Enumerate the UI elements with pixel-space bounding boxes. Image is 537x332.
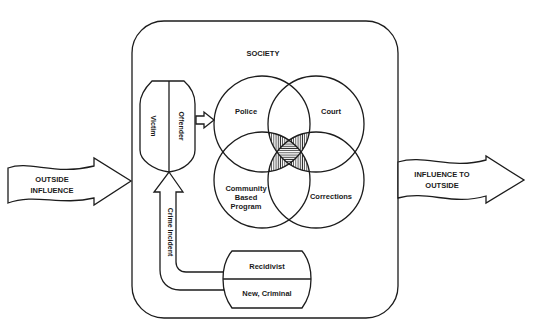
victim-label: Victim <box>150 116 157 137</box>
recidivist-new-criminal-block: Recidivist New, Criminal <box>223 251 311 308</box>
community-label-2: Based <box>235 193 258 202</box>
police-circle <box>214 76 310 172</box>
corrections-circle <box>268 132 364 228</box>
police-label: Police <box>235 107 257 116</box>
crime-incident-label: Crime Incident <box>167 208 174 257</box>
offender-to-police-arrow <box>196 112 214 128</box>
court-circle <box>268 76 364 172</box>
new-criminal-label: New, Criminal <box>242 289 291 298</box>
victim-offender-block: Victim Offender <box>140 81 195 172</box>
outside-influence-label-1: OUTSIDE <box>35 175 68 184</box>
community-label-1: Community <box>225 184 267 193</box>
recidivist-label: Recidivist <box>249 262 285 271</box>
influence-to-outside-label-2: OUTSIDE <box>425 181 458 190</box>
influence-to-outside-arrow: INFLUENCE TO OUTSIDE <box>398 156 524 203</box>
criminal-justice-system-diagram: SOCIETY OUTSIDE INFLUENCE INFLUENCE TO O… <box>0 0 537 332</box>
outside-influence-label-2: INFLUENCE <box>31 186 74 195</box>
corrections-label: Corrections <box>310 192 352 201</box>
court-label: Court <box>321 107 341 116</box>
offender-label: Offender <box>178 111 185 140</box>
outside-influence-arrow: OUTSIDE INFLUENCE <box>8 158 131 205</box>
venn-overlaps <box>214 132 364 228</box>
community-label-3: Program <box>231 202 262 211</box>
community-circle <box>214 132 310 228</box>
influence-to-outside-label-1: INFLUENCE TO <box>414 170 469 179</box>
crime-incident-arrow: Crime Incident <box>154 172 224 290</box>
society-label: SOCIETY <box>247 49 280 58</box>
